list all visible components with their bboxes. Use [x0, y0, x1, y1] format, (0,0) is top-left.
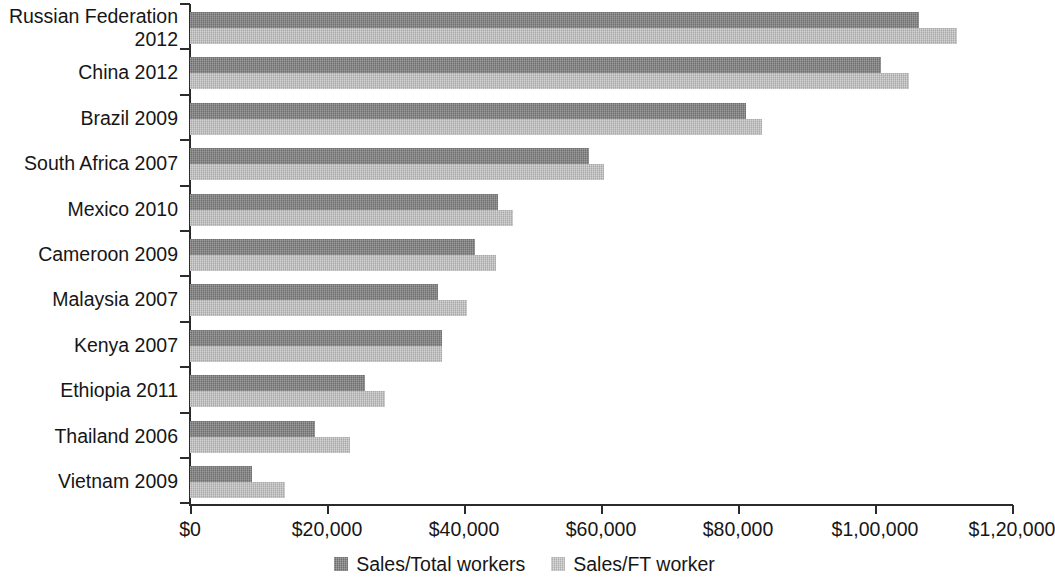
y-axis-tick	[180, 3, 190, 5]
bar-ft-worker	[190, 119, 762, 135]
x-axis-tick	[601, 505, 603, 514]
bar-total-workers	[190, 148, 589, 164]
x-axis-tick	[327, 505, 329, 514]
y-axis-tick	[180, 321, 190, 323]
bar-ft-worker	[190, 210, 513, 226]
bar-total-workers	[190, 330, 442, 346]
x-axis-tick-label: $80,000	[703, 518, 774, 540]
y-axis-category-label: China 2012	[0, 61, 178, 84]
bar-ft-worker	[190, 346, 442, 362]
bar-total-workers	[190, 466, 252, 482]
bar-ft-worker	[190, 73, 909, 89]
legend-swatch-icon	[551, 557, 565, 571]
legend-label: Sales/Total workers	[356, 553, 525, 575]
bar-total-workers	[190, 239, 475, 255]
bar-total-workers	[190, 421, 315, 437]
legend-swatch-icon	[334, 557, 348, 571]
bar-ft-worker	[190, 164, 604, 180]
x-axis-tick	[464, 505, 466, 514]
bar-ft-worker	[190, 391, 385, 407]
x-axis-tick-label: $40,000	[429, 518, 500, 540]
y-axis-tick	[180, 230, 190, 232]
bar-ft-worker	[190, 255, 496, 271]
y-axis-category-label: South Africa 2007	[0, 152, 178, 175]
y-axis-tick	[180, 275, 190, 277]
x-axis-tick	[190, 505, 192, 514]
y-axis-category-label: Thailand 2006	[0, 425, 178, 448]
x-axis-tick	[1012, 505, 1014, 514]
y-axis-category-label: Mexico 2010	[0, 198, 178, 221]
bar-total-workers	[190, 375, 365, 391]
x-axis-tick	[875, 505, 877, 514]
bar-ft-worker	[190, 482, 285, 498]
chart-legend: Sales/Total workersSales/FT worker	[0, 553, 1049, 575]
legend-item: Sales/Total workers	[334, 553, 525, 575]
x-axis-tick-label: $60,000	[566, 518, 637, 540]
y-axis-category-label: Malaysia 2007	[0, 288, 178, 311]
bar-total-workers	[190, 194, 498, 210]
x-axis-tick-label: $1,00,000	[832, 518, 919, 540]
x-axis-tick-label: $1,20,000	[969, 518, 1055, 540]
y-axis-category-label: Brazil 2009	[0, 107, 178, 130]
bar-total-workers	[190, 12, 919, 28]
bar-ft-worker	[190, 300, 467, 316]
y-axis-tick	[180, 94, 190, 96]
y-axis-tick	[180, 502, 190, 504]
bar-ft-worker	[190, 28, 957, 44]
y-axis-tick	[180, 139, 190, 141]
y-axis-tick	[180, 185, 190, 187]
x-axis-tick	[738, 505, 740, 514]
y-axis-category-label: Kenya 2007	[0, 334, 178, 357]
y-axis-tick	[180, 48, 190, 50]
x-axis-tick-label: $20,000	[292, 518, 363, 540]
plot-area	[190, 4, 1012, 505]
legend-item: Sales/FT worker	[551, 553, 715, 575]
x-axis-tick-label: $0	[179, 518, 201, 540]
y-axis-category-label: Ethiopia 2011	[0, 379, 178, 402]
bar-total-workers	[190, 57, 881, 73]
y-axis-category-label: Cameroon 2009	[0, 243, 178, 266]
bar-ft-worker	[190, 437, 350, 453]
bar-total-workers	[190, 103, 746, 119]
y-axis-tick	[180, 412, 190, 414]
y-axis-category-label: Russian Federation 2012	[0, 5, 178, 51]
bar-total-workers	[190, 284, 438, 300]
legend-label: Sales/FT worker	[573, 553, 715, 575]
y-axis-tick	[180, 457, 190, 459]
y-axis-tick	[180, 366, 190, 368]
y-axis-category-label: Vietnam 2009	[0, 470, 178, 493]
